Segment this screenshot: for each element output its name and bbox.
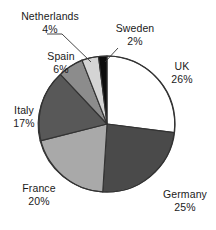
- pie-label-germany: Germany 25%: [154, 188, 216, 213]
- pie-label-italy-value: 17%: [2, 117, 46, 130]
- pie-label-netherlands-name: Netherlands: [8, 10, 92, 23]
- pie-label-spain: Spain 6%: [38, 50, 84, 75]
- pie-label-france-value: 20%: [10, 195, 68, 208]
- pie-label-sweden: Sweden 2%: [104, 22, 166, 47]
- pie-label-italy: Italy 17%: [2, 104, 46, 129]
- pie-label-france-name: France: [10, 182, 68, 195]
- pie-label-uk: UK 26%: [160, 60, 204, 85]
- pie-label-uk-value: 26%: [160, 73, 204, 86]
- pie-label-uk-name: UK: [160, 60, 204, 73]
- pie-label-germany-value: 25%: [154, 201, 216, 214]
- pie-label-italy-name: Italy: [2, 104, 46, 117]
- pie-label-spain-value: 6%: [38, 63, 84, 76]
- pie-label-france: France 20%: [10, 182, 68, 207]
- pie-label-sweden-name: Sweden: [104, 22, 166, 35]
- pie-chart-figure: Netherlands 4% Sweden 2% Spain 6% UK 26%…: [0, 0, 216, 230]
- pie-label-sweden-value: 2%: [104, 35, 166, 48]
- pie-label-germany-name: Germany: [154, 188, 216, 201]
- pie-label-spain-name: Spain: [38, 50, 84, 63]
- pie-label-netherlands-value: 4%: [8, 23, 92, 36]
- pie-label-netherlands: Netherlands 4%: [8, 10, 92, 35]
- pie-slice-germany: [103, 124, 174, 192]
